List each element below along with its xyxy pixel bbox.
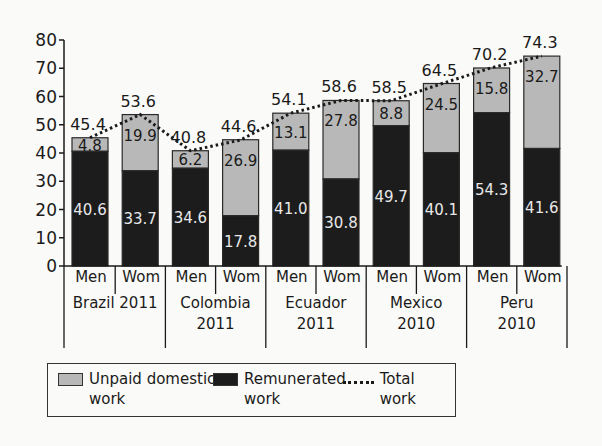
total-value-label: 54.1 — [271, 90, 307, 109]
group-label-year: 2011 — [297, 315, 335, 333]
total-value-label: 70.2 — [472, 45, 508, 64]
unpaid-value-label: 32.7 — [525, 68, 558, 86]
y-tick-label: 40 — [35, 143, 57, 163]
remunerated-value-label: 54.3 — [475, 181, 508, 199]
legend-item-total: Total work — [343, 369, 455, 409]
legend-label-total: Total work — [380, 369, 455, 409]
group-label-year: 2010 — [397, 315, 435, 333]
remunerated-value-label: 40.1 — [425, 201, 458, 219]
total-value-label: 53.6 — [120, 92, 156, 111]
total-value-label: 45.4 — [70, 115, 106, 134]
bar-stack: 40.124.5 — [423, 84, 459, 266]
total-value-label: 44.6 — [221, 117, 257, 136]
category-label: Men — [376, 268, 408, 286]
y-axis: 01020304050607080 — [35, 30, 64, 276]
category-label: Wom — [122, 268, 160, 286]
remunerated-value-label: 34.6 — [174, 209, 207, 227]
group-label: Peru — [500, 294, 533, 312]
y-tick-label: 10 — [35, 228, 57, 248]
unpaid-value-label: 19.9 — [123, 127, 156, 145]
group-label: Brazil 2011 — [73, 294, 158, 312]
category-label: Wom — [424, 268, 462, 286]
unpaid-value-label: 27.8 — [324, 112, 357, 130]
group-label: Ecuador — [285, 294, 347, 312]
group-label-year: 2010 — [498, 315, 536, 333]
total-value-label: 58.6 — [321, 77, 357, 96]
unpaid-value-label: 24.5 — [425, 96, 458, 114]
unpaid-value-label: 8.8 — [379, 105, 403, 123]
unpaid-value-label: 4.8 — [78, 137, 102, 155]
category-label: Wom — [323, 268, 361, 286]
bar-stack: 30.827.8 — [323, 100, 359, 266]
unpaid-swatch-icon — [58, 373, 83, 386]
legend-item-unpaid: Unpaid domestic work — [58, 369, 215, 409]
y-tick-label: 60 — [35, 87, 57, 107]
y-tick-label: 0 — [46, 256, 57, 276]
group-label: Colombia — [180, 294, 251, 312]
category-label: Men — [176, 268, 208, 286]
total-value-label: 74.3 — [522, 33, 558, 52]
remunerated-value-label: 40.6 — [73, 201, 106, 219]
bar-stack: 54.315.8 — [474, 68, 510, 266]
bar-stack: 40.64.8 — [72, 137, 108, 266]
legend-label-remunerated: Remunerated work — [244, 369, 346, 409]
unpaid-value-label: 26.9 — [224, 152, 257, 170]
y-tick-label: 50 — [35, 115, 57, 135]
remunerated-swatch-icon — [213, 373, 238, 386]
x-axis: MenWomMenWomMenWomMenWomMenWomBrazil 201… — [64, 266, 567, 348]
y-tick-label: 30 — [35, 171, 57, 191]
bar-stack: 33.719.9 — [122, 115, 158, 266]
legend-item-remunerated: Remunerated work — [213, 369, 346, 409]
bar-segment-unpaid — [423, 84, 459, 153]
remunerated-value-label: 41.0 — [274, 200, 307, 218]
y-tick-label: 70 — [35, 58, 57, 78]
group-label-year: 2011 — [196, 315, 234, 333]
legend: Unpaid domestic work Remunerated work To… — [47, 363, 456, 417]
remunerated-value-label: 49.7 — [374, 188, 407, 206]
category-label: Men — [75, 268, 107, 286]
legend-label-unpaid: Unpaid domestic work — [89, 369, 215, 409]
category-label: Men — [477, 268, 509, 286]
bar-stack: 34.66.2 — [172, 151, 208, 266]
remunerated-value-label: 30.8 — [324, 214, 357, 232]
bar-stack: 41.013.1 — [273, 113, 309, 266]
total-value-label: 64.5 — [422, 61, 458, 80]
category-label: Wom — [223, 268, 261, 286]
unpaid-value-label: 15.8 — [475, 80, 508, 98]
remunerated-value-label: 17.8 — [224, 233, 257, 251]
total-value-label: 58.5 — [371, 78, 407, 97]
bar-stack: 41.632.7 — [524, 56, 560, 266]
bars: 40.64.833.719.934.66.217.826.941.013.130… — [72, 56, 560, 266]
y-tick-label: 80 — [35, 30, 57, 50]
dotted-line-icon — [343, 381, 374, 384]
unpaid-value-label: 6.2 — [178, 151, 202, 169]
unpaid-value-label: 13.1 — [274, 124, 307, 142]
y-tick-label: 20 — [35, 200, 57, 220]
category-label: Men — [276, 268, 308, 286]
category-label: Wom — [524, 268, 562, 286]
group-label: Mexico — [390, 294, 442, 312]
bar-stack: 17.826.9 — [223, 140, 259, 266]
total-value-label: 40.8 — [171, 128, 207, 147]
remunerated-value-label: 41.6 — [525, 199, 558, 217]
bar-stack: 49.78.8 — [373, 101, 409, 266]
remunerated-value-label: 33.7 — [123, 210, 156, 228]
